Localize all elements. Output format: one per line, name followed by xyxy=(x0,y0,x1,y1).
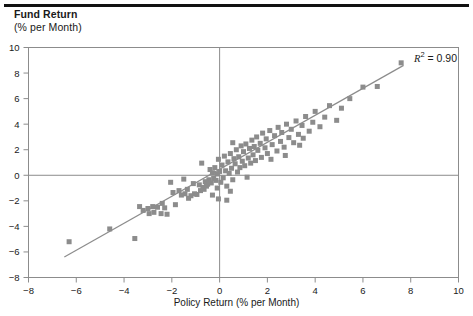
data-point-marker xyxy=(284,122,289,127)
data-point-marker xyxy=(168,180,173,185)
data-point-marker xyxy=(230,140,235,145)
data-point-marker xyxy=(260,131,265,136)
data-point-marker xyxy=(283,153,288,158)
y-tick-label: 4 xyxy=(14,119,19,130)
y-tick-label: 8 xyxy=(14,68,19,79)
y-tick-label: −2 xyxy=(9,195,20,206)
data-point-marker xyxy=(150,204,155,209)
data-point-marker xyxy=(286,135,291,140)
y-tick-label: 2 xyxy=(14,144,19,155)
data-point-marker xyxy=(228,189,233,194)
data-point-marker xyxy=(339,106,344,111)
data-point-marker xyxy=(297,143,302,148)
data-point-marker xyxy=(289,127,294,132)
data-point-marker xyxy=(218,180,223,185)
data-point-marker xyxy=(300,123,305,128)
data-point-marker xyxy=(258,141,263,146)
data-point-marker xyxy=(210,193,215,198)
data-point-marker xyxy=(210,170,215,175)
y-tick-label: −4 xyxy=(9,221,20,232)
data-point-marker xyxy=(185,187,190,192)
data-point-marker xyxy=(294,118,299,123)
data-point-marker xyxy=(217,169,222,174)
data-point-marker xyxy=(254,134,259,139)
data-point-marker xyxy=(296,132,301,137)
data-point-marker xyxy=(181,177,186,182)
data-point-marker xyxy=(327,103,332,108)
data-point-marker xyxy=(239,143,244,148)
data-point-marker xyxy=(245,175,250,180)
data-point-marker xyxy=(255,148,260,153)
data-point-marker xyxy=(242,163,247,168)
data-point-marker xyxy=(151,210,156,215)
data-point-marker xyxy=(237,165,242,170)
x-tick-label: −6 xyxy=(71,285,82,296)
data-point-marker xyxy=(145,206,150,211)
data-point-marker xyxy=(216,157,221,162)
data-point-marker xyxy=(229,166,234,171)
data-point-marker xyxy=(313,109,318,114)
data-point-marker xyxy=(160,201,165,206)
x-tick-label: −2 xyxy=(166,285,177,296)
data-point-marker xyxy=(155,205,160,210)
data-point-marker xyxy=(243,141,248,146)
data-point-marker xyxy=(399,60,404,65)
data-point-marker xyxy=(177,188,182,193)
data-point-marker xyxy=(310,120,315,125)
data-point-marker xyxy=(263,145,268,150)
scatter-plot-canvas: −8−6−4−20246810−8−6−4−20246810 xyxy=(0,0,473,316)
data-point-marker xyxy=(236,154,241,159)
y-tick-label: −8 xyxy=(9,272,20,283)
data-point-marker xyxy=(199,161,204,166)
y-tick-label: 6 xyxy=(14,93,19,104)
x-tick-label: 6 xyxy=(360,285,365,296)
r-squared-exponent: 2 xyxy=(420,50,424,59)
data-point-marker xyxy=(228,151,233,156)
data-point-marker xyxy=(165,212,170,217)
data-point-marker xyxy=(303,114,308,119)
data-point-marker xyxy=(233,161,238,166)
data-point-marker xyxy=(247,146,252,151)
data-point-marker xyxy=(240,159,245,164)
data-points-group xyxy=(67,60,404,244)
data-point-marker xyxy=(162,205,167,210)
data-point-marker xyxy=(251,152,256,157)
x-tick-label: 2 xyxy=(265,285,270,296)
data-point-marker xyxy=(265,151,270,156)
data-point-marker xyxy=(222,154,227,159)
data-point-marker xyxy=(347,96,352,101)
data-point-marker xyxy=(141,208,146,213)
data-point-marker xyxy=(248,161,253,166)
data-point-marker xyxy=(182,191,187,196)
data-point-marker xyxy=(241,149,246,154)
data-point-marker xyxy=(209,180,214,185)
y-tick-label: 0 xyxy=(14,170,19,181)
data-point-marker xyxy=(230,177,235,182)
data-point-marker xyxy=(375,84,380,89)
trendline xyxy=(64,65,403,257)
x-tick-label: 4 xyxy=(313,285,318,296)
y-tick-label: 10 xyxy=(9,42,20,53)
x-tick-label: −4 xyxy=(119,285,130,296)
data-point-marker xyxy=(249,138,254,143)
data-point-marker xyxy=(132,236,137,241)
data-point-marker xyxy=(214,178,219,183)
data-point-marker xyxy=(259,155,264,160)
data-point-marker xyxy=(215,186,220,191)
data-point-marker xyxy=(107,226,112,231)
data-point-marker xyxy=(147,211,152,216)
data-point-marker xyxy=(317,124,322,129)
data-point-marker xyxy=(246,156,251,161)
r-squared-value: = 0.90 xyxy=(428,52,458,64)
data-point-marker xyxy=(268,157,273,162)
data-point-marker xyxy=(278,139,283,144)
data-point-marker xyxy=(235,170,240,175)
data-point-marker xyxy=(267,128,272,133)
data-point-marker xyxy=(67,239,72,244)
data-point-marker xyxy=(334,118,339,123)
data-point-marker xyxy=(171,190,176,195)
x-tick-label: −8 xyxy=(23,285,34,296)
data-point-marker xyxy=(224,184,229,189)
y-tick-label: −6 xyxy=(9,246,20,257)
data-point-marker xyxy=(264,136,269,141)
